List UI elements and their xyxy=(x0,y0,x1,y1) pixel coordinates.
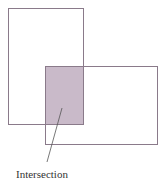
intersection-label: Intersection xyxy=(16,168,68,180)
intersection-region xyxy=(45,66,83,124)
venn-rectangles-diagram xyxy=(0,0,165,185)
